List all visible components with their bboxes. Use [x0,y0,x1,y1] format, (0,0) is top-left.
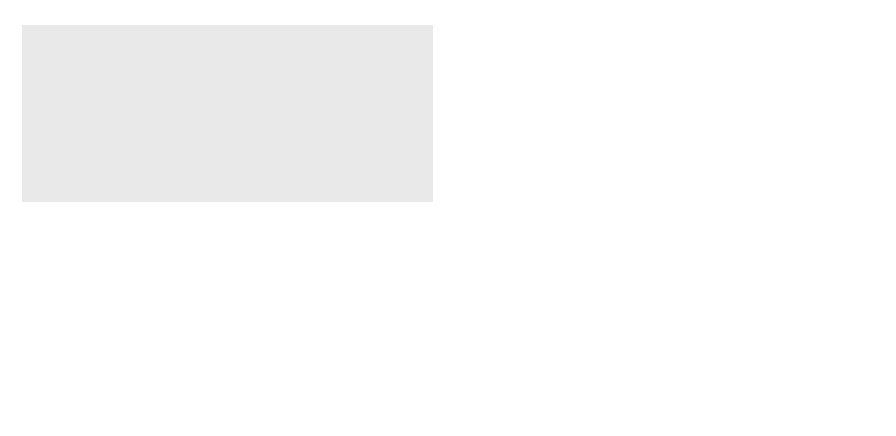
figure [0,0,896,436]
panel-a [22,25,433,202]
